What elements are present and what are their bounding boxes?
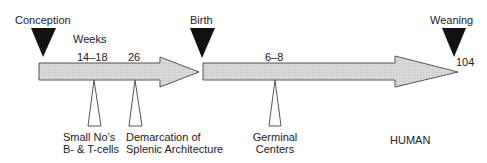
birth-marker-icon: [190, 28, 215, 58]
germinal-centers-marker-icon: [269, 80, 281, 126]
prenatal-arrow: [39, 57, 199, 87]
weeks-label: Weeks: [73, 33, 106, 45]
event-b-t-cells-line2: B- & T-cells: [63, 143, 119, 155]
tick-6-8: 6–8: [265, 51, 283, 63]
event-germinal-line1: Germinal: [250, 131, 300, 143]
tick-14-18: 14–18: [77, 51, 108, 63]
event-splenic-architecture-label: Demarcation of Splenic Architecture: [126, 131, 223, 155]
conception-marker-icon: [31, 28, 56, 57]
event-splenic-line2: Splenic Architecture: [126, 143, 223, 155]
splenic-architecture-marker-icon: [129, 80, 142, 126]
event-b-t-cells-label: Small No’s B- & T-cells: [63, 131, 119, 155]
event-splenic-line1: Demarcation of: [126, 131, 223, 143]
tick-104: 104: [456, 56, 474, 68]
event-germinal-line2: Centers: [250, 143, 300, 155]
b-t-cells-marker-icon: [88, 80, 101, 126]
tick-26: 26: [128, 51, 140, 63]
conception-label: Conception: [15, 14, 71, 26]
event-germinal-centers-label: Germinal Centers: [250, 131, 300, 155]
weaning-label: Weaning: [430, 14, 473, 26]
event-b-t-cells-line1: Small No’s: [63, 131, 119, 143]
postnatal-arrow: [203, 56, 458, 87]
birth-label: Birth: [190, 14, 213, 26]
weaning-marker-icon: [442, 28, 466, 57]
species-label: HUMAN: [390, 134, 430, 146]
